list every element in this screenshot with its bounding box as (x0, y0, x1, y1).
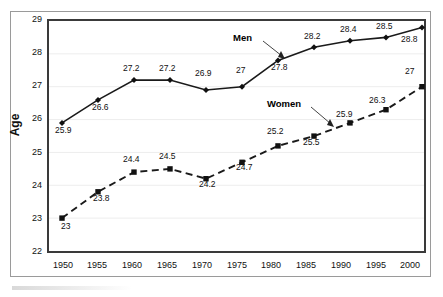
xtick-label-1955: 1955 (80, 260, 114, 270)
ytick-label-28: 28 (20, 47, 42, 57)
chart-figure: 29 28 27 26 25 24 23 22 Age 1950 1955 19… (0, 0, 443, 297)
data-label-women-2000: 27 (405, 66, 414, 76)
data-label-men-1970: 26.9 (195, 68, 212, 78)
data-label-women-1975: 24.7 (236, 162, 253, 172)
data-label-women-1950: 23 (61, 221, 70, 231)
ytick-label-23: 23 (20, 213, 42, 223)
ytick-label-25: 25 (20, 147, 42, 157)
data-label-men-1980: 27.8 (271, 62, 288, 72)
data-label-women-1955: 23.8 (93, 193, 110, 203)
y-axis-title: Age (8, 102, 22, 148)
data-label-men-1965: 27.2 (159, 63, 176, 73)
scan-artifact (12, 286, 132, 290)
annotation-arrows (49, 21, 424, 251)
ytick-label-27: 27 (20, 80, 42, 90)
data-label-men-1955: 26.6 (92, 102, 109, 112)
ytick-label-29: 29 (20, 14, 42, 24)
data-label-men-1960: 27.2 (123, 63, 140, 73)
data-label-men-1995: 28.5 (376, 21, 393, 31)
ytick-label-22: 22 (20, 246, 42, 256)
data-label-women-1985: 25.5 (303, 137, 320, 147)
data-label-men-2000: 28.8 (401, 34, 418, 44)
data-label-men-1950: 25.9 (55, 125, 72, 135)
data-label-men-1975: 27 (236, 65, 245, 75)
ytick-label-26: 26 (20, 113, 42, 123)
xtick-label-1970: 1970 (185, 260, 219, 270)
ytick-label-24: 24 (20, 180, 42, 190)
data-label-women-1995: 26.3 (369, 95, 386, 105)
data-label-men-1990: 28.4 (340, 24, 357, 34)
xtick-label-1975: 1975 (220, 260, 254, 270)
annotation-women: Women (267, 98, 301, 109)
xtick-label-1985: 1985 (289, 260, 323, 270)
xtick-label-1980: 1980 (254, 260, 288, 270)
xtick-label-1990: 1990 (324, 260, 358, 270)
xtick-label-1960: 1960 (115, 260, 149, 270)
xtick-label-2000: 2000 (393, 260, 427, 270)
data-label-women-1960: 24.4 (123, 154, 140, 164)
annotation-men: Men (233, 32, 252, 43)
xtick-label-1995: 1995 (359, 260, 393, 270)
data-label-men-1985: 28.2 (304, 31, 321, 41)
data-label-women-1965: 24.5 (159, 151, 176, 161)
data-label-women-1980: 25.2 (267, 126, 284, 136)
plot-area: 25.9 26.6 27.2 27.2 26.9 27 27.8 28.2 28… (47, 19, 426, 253)
xtick-label-1965: 1965 (150, 260, 184, 270)
data-label-women-1970: 24.2 (199, 179, 216, 189)
xtick-label-1950: 1950 (46, 260, 80, 270)
data-label-women-1990: 25.9 (336, 109, 353, 119)
